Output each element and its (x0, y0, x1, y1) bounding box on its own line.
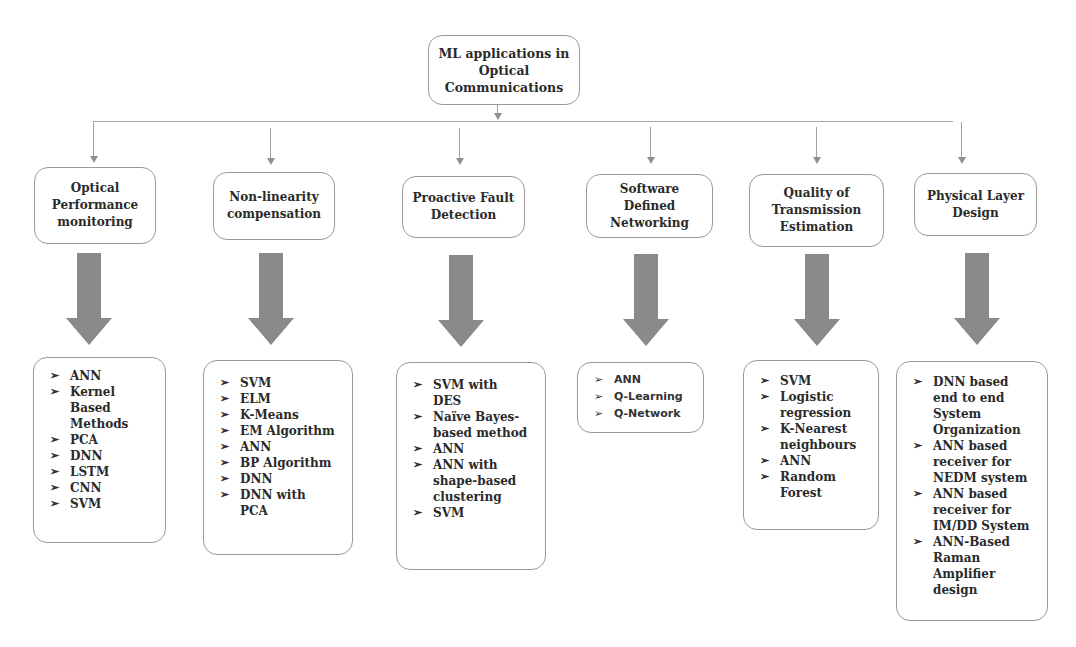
list-item: ➢EM Algorithm (220, 423, 342, 439)
list-item: ➢ELM (220, 391, 342, 407)
category-proactive-fault-detection: Proactive Fault Detection (402, 176, 525, 238)
arrowhead-bullet-icon: ➢ (50, 464, 70, 480)
arrowhead-bullet-icon: ➢ (50, 480, 70, 496)
arrowhead-bullet-icon: ➢ (50, 496, 70, 512)
arrowhead-bullet-icon: ➢ (594, 405, 614, 422)
list-item: ➢SVM with DES (413, 377, 535, 409)
list-item: ➢K-Means (220, 407, 342, 423)
list-item: ➢SVM (760, 373, 868, 389)
list-item: ➢SVM (413, 505, 535, 521)
list-item: ➢ANN (413, 441, 535, 457)
down-arrow-icon (248, 253, 294, 345)
root-node: ML applications in Optical Communication… (428, 35, 580, 105)
list-item: ➢DNN with PCA (220, 487, 342, 519)
arrowhead-bullet-icon: ➢ (760, 421, 780, 453)
root-title: ML applications in Optical Communication… (437, 45, 571, 96)
method-list-optical-performance-monitoring: ➢ANN ➢Kernel Based Methods ➢PCA ➢DNN ➢LS… (33, 357, 166, 543)
branch-arrow-tip-icon (90, 156, 98, 163)
list-item: ➢LSTM (50, 464, 155, 480)
list-item: ➢DNN (50, 448, 155, 464)
arrowhead-bullet-icon: ➢ (50, 448, 70, 464)
list-item: ➢CNN (50, 480, 155, 496)
down-arrow-icon (954, 253, 1000, 345)
list-item: ➢K-Nearest neighbours (760, 421, 868, 453)
list-item: ➢ANN (50, 368, 155, 384)
arrowhead-bullet-icon: ➢ (760, 373, 780, 389)
arrowhead-bullet-icon: ➢ (413, 409, 433, 441)
root-arrow-tip-icon (494, 113, 502, 120)
branch-connector-4 (650, 127, 651, 159)
list-item: ➢ANN (760, 453, 868, 469)
list-item: ➢ANN-Based Raman Amplifier design (913, 534, 1037, 598)
list-item: ➢SVM (50, 496, 155, 512)
category-physical-layer-design: Physical Layer Design (914, 173, 1037, 236)
down-arrow-icon (794, 254, 840, 346)
category-title: Software Defined Networking (595, 181, 704, 232)
down-arrow-icon (438, 255, 484, 347)
list-item: ➢ANN based receiver for NEDM system (913, 438, 1037, 486)
category-quality-of-transmission-estimation: Quality of Transmission Estimation (749, 174, 884, 247)
category-title: Non-linearity compensation (222, 189, 326, 223)
list-item: ➢Q-Network (594, 405, 693, 422)
arrowhead-bullet-icon: ➢ (220, 391, 240, 407)
arrowhead-bullet-icon: ➢ (220, 423, 240, 439)
list-item: ➢DNN (220, 471, 342, 487)
arrowhead-bullet-icon: ➢ (760, 469, 780, 501)
method-list-software-defined-networking: ➢ANN ➢Q-Learning ➢Q-Network (577, 362, 704, 433)
arrowhead-bullet-icon: ➢ (760, 453, 780, 469)
list-item: ➢ANN based receiver for IM/DD System (913, 486, 1037, 534)
arrowhead-bullet-icon: ➢ (413, 441, 433, 457)
category-non-linearity-compensation: Non-linearity compensation (213, 172, 335, 240)
arrowhead-bullet-icon: ➢ (220, 439, 240, 455)
method-list-quality-of-transmission-estimation: ➢SVM ➢Logistic regression ➢K-Nearest nei… (743, 360, 879, 530)
branch-bus-line (93, 121, 953, 122)
list-item: ➢Kernel Based Methods (50, 384, 155, 432)
arrowhead-bullet-icon: ➢ (220, 407, 240, 423)
arrowhead-bullet-icon: ➢ (913, 534, 933, 598)
list-item: ➢SVM (220, 375, 342, 391)
arrowhead-bullet-icon: ➢ (220, 375, 240, 391)
arrowhead-bullet-icon: ➢ (50, 384, 70, 432)
arrowhead-bullet-icon: ➢ (220, 471, 240, 487)
arrowhead-bullet-icon: ➢ (413, 457, 433, 505)
list-item: ➢Q-Learning (594, 388, 693, 405)
list-item: ➢PCA (50, 432, 155, 448)
down-arrow-icon (66, 253, 112, 345)
category-title: Physical Layer Design (923, 188, 1028, 222)
arrowhead-bullet-icon: ➢ (413, 377, 433, 409)
list-item: ➢Logistic regression (760, 389, 868, 421)
branch-arrow-tip-icon (456, 158, 464, 165)
list-item: ➢ANN with shape-based clustering (413, 457, 535, 505)
branch-arrow-tip-icon (647, 157, 655, 164)
arrowhead-bullet-icon: ➢ (913, 374, 933, 438)
arrowhead-bullet-icon: ➢ (50, 432, 70, 448)
category-title: Proactive Fault Detection (411, 190, 516, 224)
list-item: ➢ANN (594, 371, 693, 388)
list-item: ➢Random Forest (760, 469, 868, 501)
branch-arrow-tip-icon (958, 157, 966, 164)
category-optical-performance-monitoring: Optical Performance monitoring (34, 167, 156, 244)
branch-arrow-tip-icon (813, 157, 821, 164)
branch-connector-1 (93, 122, 94, 158)
arrowhead-bullet-icon: ➢ (50, 368, 70, 384)
category-title: Optical Performance monitoring (43, 180, 147, 231)
method-list-proactive-fault-detection: ➢SVM with DES ➢Naïve Bayes-based method … (396, 362, 546, 570)
list-item: ➢DNN based end to end System Organizatio… (913, 374, 1037, 438)
list-item: ➢Naïve Bayes-based method (413, 409, 535, 441)
arrowhead-bullet-icon: ➢ (220, 487, 240, 519)
arrowhead-bullet-icon: ➢ (913, 486, 933, 534)
method-list-physical-layer-design: ➢DNN based end to end System Organizatio… (896, 361, 1048, 621)
arrowhead-bullet-icon: ➢ (413, 505, 433, 521)
category-title: Quality of Transmission Estimation (758, 185, 875, 236)
branch-connector-3 (459, 128, 460, 160)
arrowhead-bullet-icon: ➢ (594, 371, 614, 388)
arrowhead-bullet-icon: ➢ (760, 389, 780, 421)
branch-arrow-tip-icon (267, 158, 275, 165)
branch-connector-2 (270, 128, 271, 160)
list-item: ➢ANN (220, 439, 342, 455)
down-arrow-icon (623, 254, 669, 346)
arrowhead-bullet-icon: ➢ (594, 388, 614, 405)
branch-connector-6 (961, 122, 962, 159)
list-item: ➢BP Algorithm (220, 455, 342, 471)
branch-connector-5 (816, 127, 817, 159)
